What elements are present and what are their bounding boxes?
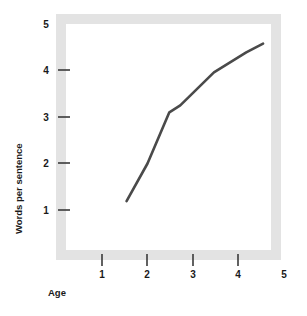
y-tick-label-2: 2 (43, 158, 49, 169)
y-tick-label-5: 5 (43, 19, 49, 30)
line-chart-svg: 5 4 3 2 1 1 2 3 4 5 Age Words per senten… (0, 0, 307, 316)
y-axis-title: Words per sentence (13, 143, 24, 234)
x-tick-label-5: 5 (281, 269, 287, 280)
x-axis-title: Age (48, 287, 66, 298)
x-tick-label-1: 1 (99, 269, 105, 280)
y-tick-label-1: 1 (43, 205, 49, 216)
y-tick-label-4: 4 (43, 65, 49, 76)
y-tick-label-3: 3 (43, 112, 49, 123)
x-tick-label-3: 3 (190, 269, 196, 280)
chart-figure: 5 4 3 2 1 1 2 3 4 5 Age Words per senten… (0, 0, 307, 316)
x-tick-label-4: 4 (235, 269, 241, 280)
x-tick-label-2: 2 (144, 269, 150, 280)
plot-area (66, 24, 271, 250)
